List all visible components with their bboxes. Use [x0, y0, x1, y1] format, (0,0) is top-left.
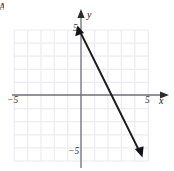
figure-tag: A — [0, 2, 4, 15]
coordinate-plane-svg — [0, 0, 174, 171]
x-axis-label: x — [159, 96, 163, 106]
y-axis-tick-label-5: 5 — [73, 24, 78, 34]
plotted-line — [75, 26, 143, 158]
graph-figure: A y x 5 −5 5 −5 — [0, 0, 174, 171]
y-axis-arrow-icon — [77, 9, 84, 18]
y-axis-tick-label-neg5: −5 — [68, 147, 79, 157]
x-axis-tick-label-neg5: −5 — [7, 96, 18, 106]
x-axis-tick-label-5: 5 — [145, 96, 150, 106]
y-axis-label: y — [87, 10, 91, 20]
